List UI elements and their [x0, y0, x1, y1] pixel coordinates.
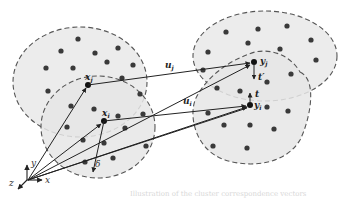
z-axis-arrow [18, 180, 27, 189]
label-delta: δ [95, 159, 100, 169]
point-yi [247, 102, 253, 108]
label-t-prime: t′ [258, 72, 265, 82]
label-axis-y: y [30, 158, 37, 168]
figure-caption: Illustration of the cluster corresponden… [130, 190, 307, 198]
cluster-vector-diagram: xj xi yj yi uj ui t′ t δ y x z Illustrat… [0, 0, 340, 198]
label-uj: uj [165, 60, 175, 72]
label-axis-z: z [8, 178, 14, 188]
left-cluster [13, 27, 155, 178]
point-yj [251, 59, 257, 65]
label-ui: ui [183, 96, 193, 107]
label-axis-x: x [45, 175, 50, 185]
